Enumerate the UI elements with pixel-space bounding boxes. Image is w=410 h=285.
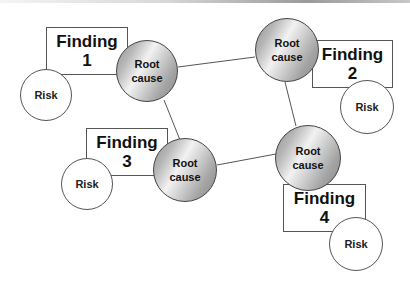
finding-2-box: Finding 2 xyxy=(312,40,393,88)
root-cause-label-line1: Root xyxy=(295,144,320,158)
risk-2-circle: Risk xyxy=(340,80,394,134)
finding-title: Finding xyxy=(294,189,355,208)
finding-number: 3 xyxy=(122,152,131,171)
finding-number: 2 xyxy=(348,64,357,83)
root-cause-diagram: Finding 1 Finding 2 Finding 3 Finding 4 … xyxy=(0,0,410,285)
finding-number: 4 xyxy=(320,208,329,227)
root-cause-2: Root cause xyxy=(255,18,319,82)
finding-title: Finding xyxy=(56,32,117,51)
finding-title: Finding xyxy=(322,45,383,64)
risk-3-circle: Risk xyxy=(61,158,113,210)
link-root3-root4 xyxy=(217,154,276,165)
root-cause-label-line2: cause xyxy=(169,170,200,184)
root-cause-label-line2: cause xyxy=(292,158,323,172)
root-cause-label-line2: cause xyxy=(131,71,162,85)
root-cause-label-line2: cause xyxy=(271,50,302,64)
risk-label: Risk xyxy=(75,178,98,190)
link-root2-root4 xyxy=(285,82,296,126)
finding-number: 1 xyxy=(82,51,91,70)
root-cause-label-line1: Root xyxy=(172,156,197,170)
root-cause-label-line1: Root xyxy=(274,36,299,50)
root-cause-3: Root cause xyxy=(153,138,217,202)
risk-label: Risk xyxy=(344,238,367,250)
root-cause-label-line1: Root xyxy=(134,57,159,71)
link-root1-root2 xyxy=(178,57,255,67)
root-cause-1: Root cause xyxy=(116,40,178,102)
risk-label: Risk xyxy=(34,89,57,101)
root-cause-4: Root cause xyxy=(275,125,341,191)
risk-4-circle: Risk xyxy=(329,217,383,271)
risk-1-circle: Risk xyxy=(20,69,72,121)
finding-title: Finding xyxy=(96,133,157,152)
risk-label: Risk xyxy=(355,101,378,113)
